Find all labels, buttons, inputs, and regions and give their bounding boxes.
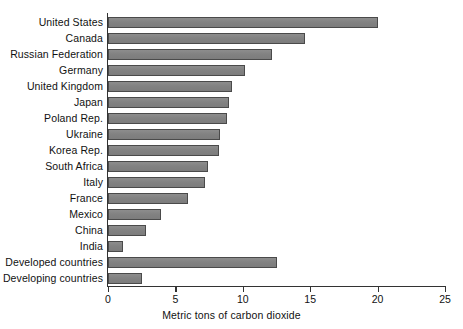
x-axis-tick [310, 286, 311, 292]
bar [108, 209, 161, 220]
bar-row [108, 78, 445, 94]
category-label: Germany [0, 62, 103, 78]
bar-row [108, 142, 445, 158]
bar [108, 145, 219, 156]
bar-rows [108, 14, 445, 286]
x-axis-tick [243, 286, 244, 292]
category-label: Mexico [0, 206, 103, 222]
bar [108, 177, 205, 188]
category-label: China [0, 222, 103, 238]
bar-row [108, 206, 445, 222]
bar-row [108, 62, 445, 78]
bar [108, 161, 208, 172]
x-axis-line [107, 286, 445, 287]
category-label: India [0, 238, 103, 254]
bar-row [108, 174, 445, 190]
category-label: Russian Federation [0, 46, 103, 62]
category-label: Canada [0, 30, 103, 46]
category-label: Italy [0, 174, 103, 190]
bar-row [108, 126, 445, 142]
category-label: Japan [0, 94, 103, 110]
category-label: South Africa [0, 158, 103, 174]
plot-area [108, 14, 445, 286]
bar-row [108, 46, 445, 62]
x-axis-tick [445, 286, 446, 292]
category-label: United Kingdom [0, 78, 103, 94]
x-axis-title: Metric tons of carbon dioxide [0, 309, 463, 321]
bar [108, 257, 277, 268]
category-label: France [0, 190, 103, 206]
bar [108, 241, 123, 252]
bar [108, 193, 188, 204]
bar-row [108, 254, 445, 270]
category-label: Developing countries [0, 270, 103, 286]
bar-row [108, 190, 445, 206]
x-axis-tick-label: 10 [228, 293, 258, 305]
category-axis-labels: United StatesCanadaRussian FederationGer… [0, 14, 103, 286]
bar [108, 129, 220, 140]
bar [108, 17, 378, 28]
x-axis-tick-label: 0 [93, 293, 123, 305]
bar-row [108, 14, 445, 30]
bar-row [108, 222, 445, 238]
bar-row [108, 270, 445, 286]
category-label: Poland Rep. [0, 110, 103, 126]
bar-chart: United StatesCanadaRussian FederationGer… [0, 0, 463, 329]
bar-row [108, 238, 445, 254]
x-axis-tick [175, 286, 176, 292]
bar-row [108, 94, 445, 110]
bar [108, 33, 305, 44]
bar [108, 49, 272, 60]
x-axis-tick-label: 25 [430, 293, 460, 305]
bar [108, 273, 142, 284]
x-axis-tick [378, 286, 379, 292]
x-axis-tick-label: 20 [363, 293, 393, 305]
bar [108, 97, 229, 108]
bar [108, 65, 245, 76]
category-label: Ukraine [0, 126, 103, 142]
x-axis-tick-label: 15 [295, 293, 325, 305]
bar-row [108, 30, 445, 46]
x-axis-tick [108, 286, 109, 292]
bar [108, 113, 227, 124]
category-label: Korea Rep. [0, 142, 103, 158]
category-label: Developed countries [0, 254, 103, 270]
bar-row [108, 110, 445, 126]
category-label: United States [0, 14, 103, 30]
x-axis-tick-label: 5 [160, 293, 190, 305]
bar-row [108, 158, 445, 174]
bar [108, 81, 232, 92]
bar [108, 225, 146, 236]
